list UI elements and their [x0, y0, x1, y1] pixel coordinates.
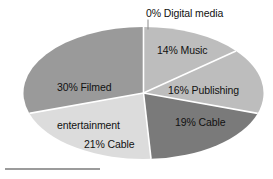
- pie-label-filmed-entertainment: 30% Filmed entertainment: [57, 56, 120, 156]
- pie-label-filmed-line1: 30% Filmed: [57, 81, 120, 94]
- bottom-rule-divider: [5, 168, 100, 170]
- pie-label-digital-media: 0% Digital media: [146, 7, 223, 20]
- pie-label-cable-networks-line2: networks: [84, 176, 134, 179]
- pie-label-publishing: 16% Publishing: [168, 84, 239, 97]
- pie-label-cable: 19% Cable: [175, 116, 225, 129]
- pie-label-filmed-line2: entertainment: [57, 119, 120, 132]
- pie-chart: 0% Digital media 14% Music 16% Publishin…: [0, 0, 273, 178]
- pie-label-music: 14% Music: [157, 44, 207, 57]
